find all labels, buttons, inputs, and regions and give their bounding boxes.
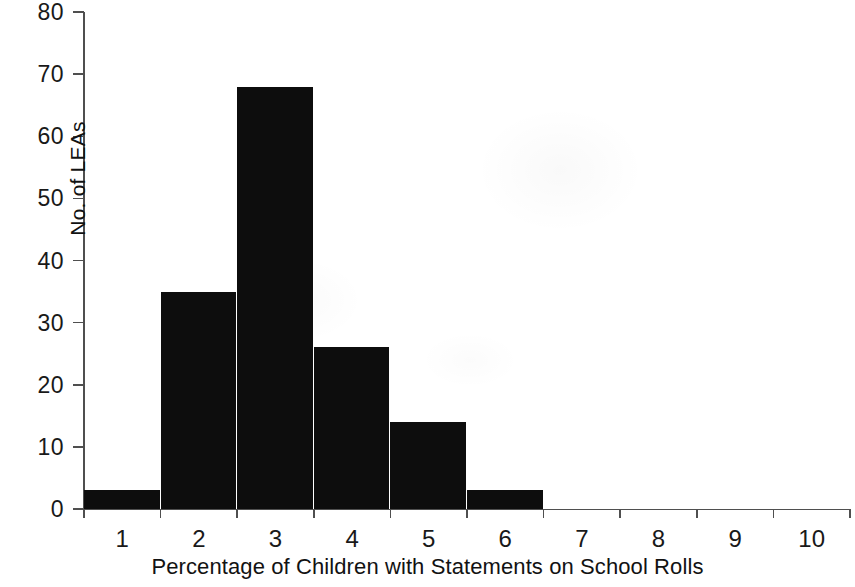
x-tick-label: 7 [575, 527, 588, 551]
y-tick-label: 80 [37, 1, 64, 24]
bar [237, 87, 314, 509]
x-tick-mark [849, 509, 851, 518]
y-tick-label: 70 [37, 63, 64, 86]
x-tick-label: 1 [116, 527, 129, 551]
x-tick-mark [236, 509, 238, 518]
y-tick-label: 40 [37, 249, 64, 272]
y-tick-mark [73, 322, 84, 324]
y-tick-mark [73, 73, 84, 75]
x-tick-label: 4 [345, 527, 358, 551]
x-tick-mark [160, 509, 162, 518]
y-tick-label: 10 [37, 435, 64, 458]
y-tick-label: 30 [37, 311, 64, 334]
histogram-chart: 01020304050607080 12345678910 No. of LEA… [0, 0, 855, 587]
y-tick-label: 20 [37, 373, 64, 396]
bar [390, 422, 467, 509]
y-tick-mark [73, 446, 84, 448]
x-tick-mark [466, 509, 468, 518]
y-axis-title: No. of LEAs [67, 94, 88, 264]
x-tick-label: 10 [798, 527, 825, 551]
x-tick-mark [543, 509, 545, 518]
y-tick-mark [73, 384, 84, 386]
bar [161, 292, 238, 509]
x-axis-title: Percentage of Children with Statements o… [0, 556, 855, 578]
x-tick-mark [773, 509, 775, 518]
y-tick-mark [73, 11, 84, 13]
bar [314, 347, 391, 509]
bar [84, 490, 161, 509]
x-tick-label: 6 [499, 527, 512, 551]
bars-layer [84, 12, 850, 509]
x-tick-mark [313, 509, 315, 518]
y-tick-label: 50 [37, 187, 64, 210]
bar [467, 490, 544, 509]
x-tick-label: 8 [652, 527, 665, 551]
x-tick-label: 9 [728, 527, 741, 551]
x-tick-mark [390, 509, 392, 518]
x-tick-label: 2 [192, 527, 205, 551]
x-tick-mark [83, 509, 85, 518]
x-tick-label: 3 [269, 527, 282, 551]
y-tick-label: 0 [51, 498, 64, 521]
y-tick-label: 60 [37, 125, 64, 148]
x-tick-label: 5 [422, 527, 435, 551]
x-tick-mark [619, 509, 621, 518]
x-tick-mark [696, 509, 698, 518]
